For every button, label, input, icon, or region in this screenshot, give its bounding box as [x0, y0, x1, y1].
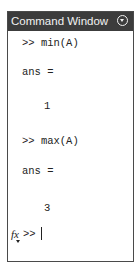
prompt-symbol: >> — [23, 228, 36, 240]
command-line: >> max(A) — [22, 135, 79, 147]
command-window-titlebar: Command Window — [8, 12, 133, 31]
output-value: 3 — [44, 202, 50, 214]
command-output-area[interactable]: >> min(A) ans = 1 >> max(A) ans = 3 fx >… — [8, 31, 133, 261]
output-label: ans = — [22, 66, 54, 78]
command-line: >> min(A) — [22, 37, 79, 49]
command-window-panel: Command Window >> min(A) ans = 1 >> max(… — [7, 11, 134, 262]
text-cursor — [41, 227, 42, 240]
function-browser-icon[interactable]: fx — [11, 228, 19, 240]
output-value: 1 — [44, 100, 50, 112]
command-prompt[interactable]: fx >> — [11, 227, 42, 240]
circle-chevron-down-icon[interactable] — [117, 15, 128, 26]
output-label: ans = — [22, 165, 54, 177]
window-title: Command Window — [11, 15, 108, 27]
